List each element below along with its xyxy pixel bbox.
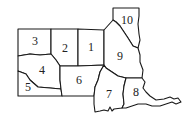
region-map: 1 2 3 4 5 6 7 8 9 10 (0, 0, 190, 121)
region-label-4: 4 (39, 63, 45, 77)
region-label-8: 8 (133, 85, 139, 99)
region-label-10: 10 (121, 13, 133, 27)
region-label-3: 3 (32, 34, 38, 48)
region-label-9: 9 (117, 49, 123, 63)
region-8[interactable] (122, 78, 181, 108)
region-label-5: 5 (25, 80, 31, 94)
region-label-7: 7 (106, 87, 112, 101)
region-label-6: 6 (76, 73, 82, 87)
region-label-2: 2 (62, 41, 68, 55)
region-label-1: 1 (88, 40, 94, 54)
